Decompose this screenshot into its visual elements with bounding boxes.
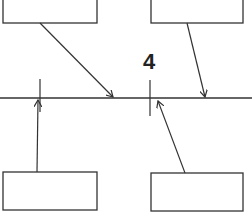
box-bottom-right bbox=[151, 173, 243, 211]
arrow-bottom-left bbox=[37, 100, 38, 172]
arrow-bottom-right bbox=[158, 101, 185, 173]
arrow-top-left bbox=[40, 23, 113, 97]
diagram-canvas bbox=[0, 0, 252, 215]
tick-label: 4 bbox=[143, 51, 155, 73]
box-bottom-left bbox=[3, 172, 97, 210]
box-top-right bbox=[151, 0, 243, 23]
arrow-top-right bbox=[187, 23, 205, 97]
box-top-left bbox=[3, 0, 97, 23]
